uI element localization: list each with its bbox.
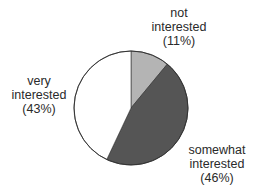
label-percent: (11%) — [146, 34, 212, 48]
label-not-interested: not interested (11%) — [146, 6, 212, 48]
label-somewhat-interested: somewhat interested (46%) — [180, 143, 253, 185]
label-line: somewhat — [180, 143, 253, 157]
label-line: not — [146, 6, 212, 20]
label-line: interested — [180, 157, 253, 171]
label-line: interested — [146, 20, 212, 34]
label-line: interested — [5, 88, 73, 102]
pie-slices — [74, 51, 188, 165]
label-very-interested: very interested (43%) — [5, 74, 73, 116]
label-line: very — [5, 74, 73, 88]
label-percent: (43%) — [5, 102, 73, 116]
label-percent: (46%) — [180, 171, 253, 185]
